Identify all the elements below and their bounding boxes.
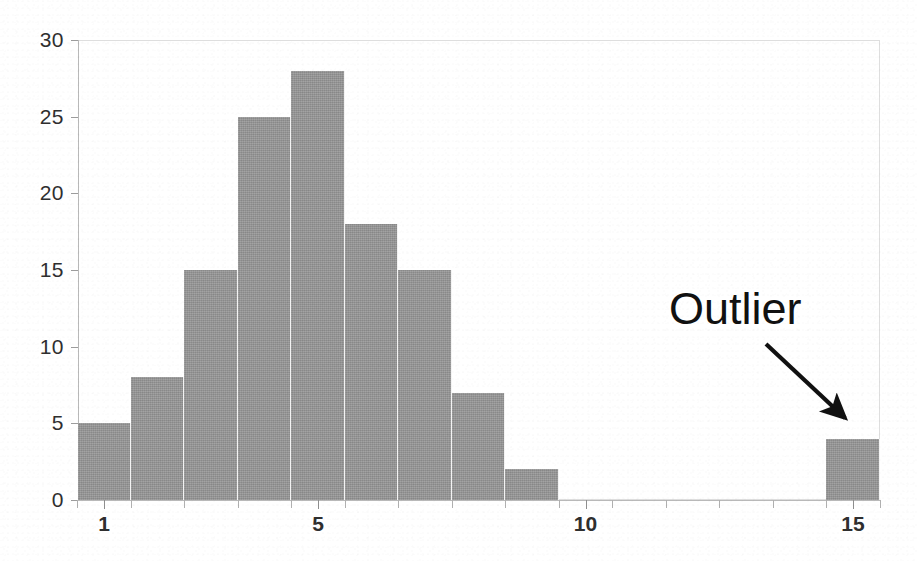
outlier-annotation-arrow-icon [0, 0, 917, 561]
histogram-chart: 051015202530 151015 Outlier [0, 0, 917, 561]
